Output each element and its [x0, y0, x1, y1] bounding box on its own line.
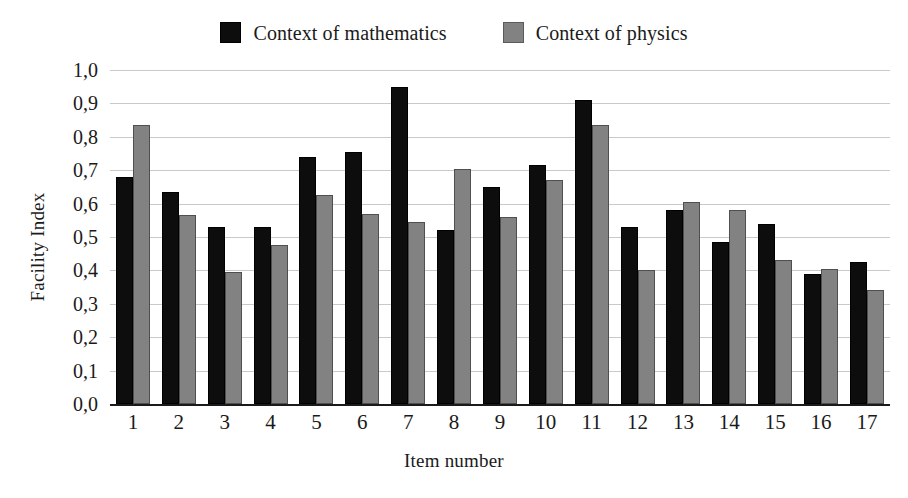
bar-group	[477, 70, 523, 404]
bar-group	[752, 70, 798, 404]
bar-mathematics	[208, 227, 225, 404]
bar-group	[615, 70, 661, 404]
x-axis-tick-label: 3	[202, 410, 248, 434]
legend-entry-mathematics: Context of mathematics	[220, 22, 446, 43]
bar-group	[248, 70, 294, 404]
x-axis-tick-label: 12	[615, 410, 661, 434]
bar-mathematics	[529, 165, 546, 404]
x-axis-tick-label: 9	[477, 410, 523, 434]
x-axis-tick-label: 4	[248, 410, 294, 434]
bar-mathematics	[621, 227, 638, 404]
x-axis-tick-label: 8	[431, 410, 477, 434]
y-axis-tick-label: 0,1	[73, 361, 98, 381]
bar-physics	[225, 272, 242, 404]
bar-physics	[500, 217, 517, 404]
bar-physics	[454, 169, 471, 404]
bar-group	[569, 70, 615, 404]
bar-physics	[271, 245, 288, 404]
bar-mathematics	[254, 227, 271, 404]
bar-physics	[179, 215, 196, 404]
y-axis-tick-label: 1,0	[73, 60, 98, 80]
bar-group	[798, 70, 844, 404]
bar-group	[156, 70, 202, 404]
bar-group	[523, 70, 569, 404]
bar-groups	[110, 70, 890, 404]
axis-baseline: 0,0	[110, 404, 890, 406]
bar-group	[385, 70, 431, 404]
x-axis-tick-label: 6	[339, 410, 385, 434]
gray-square-icon	[503, 22, 524, 43]
plot-area: 1,00,90,80,70,60,50,40,30,20,10,0	[110, 70, 890, 404]
x-axis-tick-label: 10	[523, 410, 569, 434]
bar-group	[294, 70, 340, 404]
x-axis-tick-label: 13	[661, 410, 707, 434]
x-axis-title: Item number	[0, 450, 908, 472]
black-square-icon	[220, 22, 241, 43]
x-axis-tick-label: 5	[294, 410, 340, 434]
y-axis-tick-label: 0,6	[73, 194, 98, 214]
bar-group	[661, 70, 707, 404]
chart-legend: Context of mathematics Context of physic…	[0, 22, 908, 43]
x-axis-tick-label: 2	[156, 410, 202, 434]
bar-mathematics	[345, 152, 362, 404]
y-axis-tick-label: 0,0	[73, 394, 98, 414]
bar-mathematics	[391, 87, 408, 404]
bar-physics	[638, 270, 655, 404]
bar-group	[339, 70, 385, 404]
y-axis-tick-label: 0,8	[73, 127, 98, 147]
x-axis-tick-label: 15	[752, 410, 798, 434]
bar-group	[844, 70, 890, 404]
bar-mathematics	[666, 210, 683, 404]
x-axis-tick-label: 14	[706, 410, 752, 434]
bar-mathematics	[575, 100, 592, 404]
x-axis-tick-labels: 1234567891011121314151617	[110, 410, 890, 434]
legend-label-physics: Context of physics	[536, 23, 688, 43]
bar-group	[431, 70, 477, 404]
bar-mathematics	[162, 192, 179, 404]
bar-mathematics	[116, 177, 133, 404]
y-axis-tick-label: 0,2	[73, 327, 98, 347]
legend-label-mathematics: Context of mathematics	[253, 23, 446, 43]
x-axis-tick-label: 11	[569, 410, 615, 434]
bar-physics	[133, 125, 150, 404]
bar-physics	[362, 214, 379, 404]
bar-physics	[775, 260, 792, 404]
bar-mathematics	[758, 224, 775, 404]
bar-physics	[683, 202, 700, 404]
x-axis-tick-label: 17	[844, 410, 890, 434]
x-axis-tick-label: 16	[798, 410, 844, 434]
x-axis-tick-label: 7	[385, 410, 431, 434]
bar-mathematics	[437, 230, 454, 404]
bar-mathematics	[850, 262, 867, 404]
bar-mathematics	[483, 187, 500, 404]
bar-chart-figure: Context of mathematics Context of physic…	[0, 0, 908, 498]
bar-group	[202, 70, 248, 404]
y-axis-tick-label: 0,9	[73, 93, 98, 113]
y-axis-tick-label: 0,5	[73, 227, 98, 247]
y-axis-tick-label: 0,4	[73, 260, 98, 280]
bar-mathematics	[804, 274, 821, 404]
y-axis-title: Facility Index	[27, 147, 49, 347]
y-axis-tick-label: 0,3	[73, 294, 98, 314]
bar-physics	[316, 195, 333, 404]
bar-physics	[821, 269, 838, 404]
y-axis-tick-label: 0,7	[73, 160, 98, 180]
bar-group	[110, 70, 156, 404]
bar-physics	[867, 290, 884, 404]
bar-group	[706, 70, 752, 404]
bar-physics	[729, 210, 746, 404]
bar-mathematics	[712, 242, 729, 404]
bar-physics	[546, 180, 563, 404]
bar-physics	[408, 222, 425, 404]
bar-mathematics	[299, 157, 316, 404]
x-axis-tick-label: 1	[110, 410, 156, 434]
bar-physics	[592, 125, 609, 404]
legend-entry-physics: Context of physics	[503, 22, 688, 43]
